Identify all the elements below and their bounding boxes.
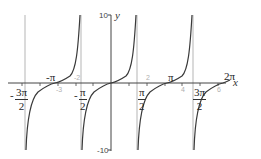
label-pi-2-den: 2 <box>138 100 146 112</box>
label-neg-3pi-2-den: 2 <box>15 100 28 112</box>
y-axis-label: y <box>115 10 120 21</box>
x-tick-minus-2: -2 <box>74 74 80 81</box>
label-neg-3pi-2-sign: - <box>10 90 14 101</box>
x-tick-2: 2 <box>146 74 150 81</box>
x-tick-4: 4 <box>181 86 185 93</box>
label-neg-pi: -π <box>46 72 55 83</box>
label-neg-3pi-2-num: 3π <box>15 87 28 100</box>
label-pi-2-num: π <box>138 87 146 100</box>
label-pi: π <box>168 72 174 83</box>
y-tick-top: 10 <box>99 12 108 20</box>
x-tick-6: 6 <box>217 86 221 93</box>
label-neg-pi-2-sign: - <box>74 90 78 101</box>
x-tick-minus-3: -3 <box>56 86 62 93</box>
label-2pi: 2π <box>224 71 235 82</box>
label-neg-3pi-2: 3π 2 <box>15 87 28 112</box>
label-3pi-2-den: 2 <box>193 100 206 112</box>
tangent-plot <box>0 0 261 159</box>
label-neg-pi-2-num: π <box>79 87 87 100</box>
label-3pi-2: 3π 2 <box>193 87 206 112</box>
label-pi-2: π 2 <box>138 87 146 112</box>
label-neg-pi-2: π 2 <box>79 87 87 112</box>
label-neg-pi-2-den: 2 <box>79 100 87 112</box>
y-tick-bottom: -10 <box>97 147 109 155</box>
label-3pi-2-num: 3π <box>193 87 206 100</box>
